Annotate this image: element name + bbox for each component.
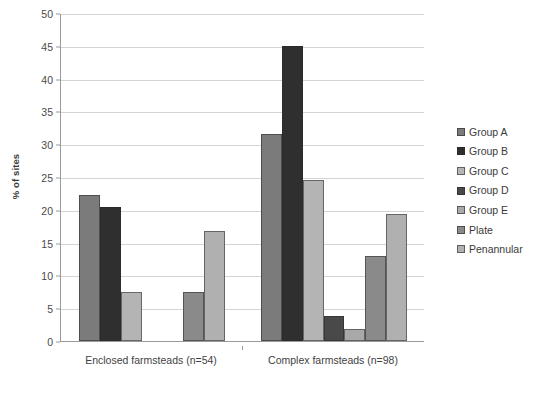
bar: [183, 292, 204, 341]
y-axis-tick-label: 25: [41, 172, 53, 184]
x-axis-labels: Enclosed farmsteads (n=54)Complex farmst…: [60, 346, 424, 370]
y-axis-tick-label: 50: [41, 8, 53, 20]
x-axis-category-label: Enclosed farmsteads (n=54): [85, 354, 217, 366]
y-axis-tick-labels: 05101520253035404550: [24, 14, 60, 342]
x-axis-tick-mark: [242, 346, 243, 350]
bar: [79, 195, 100, 341]
legend-item[interactable]: Group C: [457, 161, 543, 181]
bar: [100, 207, 121, 341]
legend-swatch-icon: [457, 167, 465, 175]
legend-item[interactable]: Penannular: [457, 240, 543, 260]
legend-swatch-icon: [457, 206, 465, 214]
legend-item[interactable]: Group E: [457, 200, 543, 220]
legend-item-label: Group C: [469, 166, 509, 177]
x-axis-category-label: Complex farmsteads (n=98): [268, 354, 398, 366]
legend-item[interactable]: Group A: [457, 122, 543, 142]
bar: [261, 134, 282, 341]
y-axis-tick-label: 35: [41, 106, 53, 118]
gridline: [61, 342, 424, 343]
legend-item[interactable]: Group B: [457, 142, 543, 162]
legend-item-label: Group B: [469, 146, 508, 157]
y-axis-tick-label: 45: [41, 41, 53, 53]
legend-swatch-icon: [457, 245, 465, 253]
legend-item-label: Group E: [469, 205, 508, 216]
bar: [344, 329, 365, 341]
y-axis-tick-label: 5: [47, 303, 53, 315]
legend-swatch-icon: [457, 128, 465, 136]
y-axis-title: % of sites: [8, 0, 24, 352]
y-axis-tick-label: 40: [41, 74, 53, 86]
y-axis-tick-label: 20: [41, 205, 53, 217]
bar: [121, 292, 142, 341]
y-axis-tick-label: 0: [47, 336, 53, 348]
bar: [303, 180, 324, 341]
bar: [386, 214, 407, 341]
y-axis-tick-label: 15: [41, 238, 53, 250]
legend-swatch-icon: [457, 226, 465, 234]
y-axis-title-label: % of sites: [11, 153, 22, 198]
legend-item[interactable]: Plate: [457, 220, 543, 240]
legend-swatch-icon: [457, 147, 465, 155]
legend-swatch-icon: [457, 187, 465, 195]
legend-item-label: Plate: [469, 225, 493, 236]
footer-remnant-text: [6, 383, 246, 390]
bar: [282, 46, 303, 341]
y-axis-tick-label: 30: [41, 139, 53, 151]
bar: [204, 231, 225, 341]
bar: [365, 256, 386, 341]
y-axis-tick-label: 10: [41, 270, 53, 282]
bars-layer: [61, 14, 424, 341]
legend-item-label: Group A: [469, 127, 508, 138]
chart-legend: Group AGroup BGroup CGroup DGroup EPlate…: [457, 122, 543, 259]
plot-area: [60, 14, 424, 342]
legend-item-label: Penannular: [469, 244, 523, 255]
legend-item[interactable]: Group D: [457, 181, 543, 201]
legend-item-label: Group D: [469, 185, 509, 196]
bar: [324, 316, 345, 341]
bar-chart: % of sites 05101520253035404550 Enclosed…: [0, 0, 546, 394]
